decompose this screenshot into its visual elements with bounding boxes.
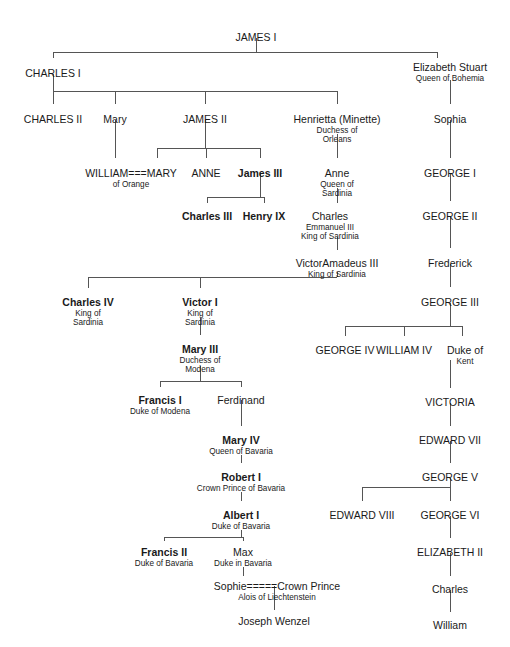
person-title: King of [62, 309, 113, 319]
person-name: Albert I [212, 510, 270, 522]
person-node-ferdinand: Ferdinand [217, 395, 264, 407]
person-title: Queen of Bohemia [413, 74, 487, 84]
person-title: Modena [180, 365, 221, 375]
person-name: Mary [103, 114, 126, 126]
person-node-max: MaxDuke in Bavaria [214, 547, 272, 568]
person-title: Duke in Bavaria [214, 559, 272, 569]
person-name: VICTORIA [425, 397, 474, 409]
person-node-francis1: Francis IDuke of Modena [130, 395, 190, 416]
person-name: Sophia [434, 114, 467, 126]
person-node-william4: WILLIAM IV [376, 345, 432, 357]
person-node-mary3: Mary IIIDuchess ofModena [180, 344, 221, 375]
person-name: ELIZABETH II [417, 547, 483, 559]
person-node-charlespw: Charles [432, 584, 468, 596]
person-name: Francis I [130, 395, 190, 407]
person-title: Crown Prince of Bavaria [197, 484, 285, 494]
person-name: Mary IV [209, 435, 273, 447]
person-title: Duke of Modena [130, 407, 190, 417]
person-name: EDWARD VIII [330, 510, 395, 522]
person-node-james2: JAMES II [183, 114, 227, 126]
person-name: Max [214, 547, 272, 559]
person-name: GEORGE I [424, 168, 476, 180]
person-name: GEORGE III [421, 297, 479, 309]
person-node-albert1: Albert IDuke of Bavaria [212, 510, 270, 531]
person-title: Orleans [294, 135, 381, 145]
person-node-charles4: Charles IVKing ofSardinia [62, 297, 113, 328]
person-name: Anne [320, 168, 354, 180]
person-node-victoram: VictorAmadeus IIIKing of Sardinia [296, 258, 379, 279]
person-node-george1: GEORGE I [424, 168, 476, 180]
person-node-edward8: EDWARD VIII [330, 510, 395, 522]
person-node-dukekent: Duke ofKent [447, 345, 483, 366]
person-node-charlesem: CharlesEmmanuel IIIKing of Sardinia [301, 211, 359, 242]
person-name: Joseph Wenzel [238, 616, 310, 628]
person-title: Emmanuel III [301, 223, 359, 233]
person-node-victoria: VICTORIA [425, 397, 474, 409]
person-name: EDWARD VII [419, 435, 481, 447]
person-node-george4: GEORGE IV [316, 345, 375, 357]
person-name: Robert I [197, 472, 285, 484]
person-title: Duke of Bavaria [135, 559, 193, 569]
person-title: King of Sardinia [301, 232, 359, 242]
person-node-elizstu: Elizabeth StuartQueen of Bohemia [413, 62, 487, 83]
person-node-sophiecp: Sophie=====Crown PrinceAlois of Liechten… [214, 581, 340, 602]
person-name: ANNE [191, 168, 220, 180]
person-title: of Orange [85, 180, 177, 190]
person-name: GEORGE V [422, 472, 478, 484]
person-node-charles3: Charles III [182, 211, 232, 223]
person-name: Charles IV [62, 297, 113, 309]
person-name: Henrietta (Minette) [294, 114, 381, 126]
person-name: WILLIAM===MARY [85, 168, 177, 180]
person-name: CHARLES I [25, 68, 80, 80]
person-name: GEORGE II [423, 211, 478, 223]
person-title: Sardinia [320, 189, 354, 199]
person-name: Duke of [447, 345, 483, 357]
person-name: Charles [301, 211, 359, 223]
person-node-sophia: Sophia [434, 114, 467, 126]
person-name: VictorAmadeus III [296, 258, 379, 270]
person-name: James III [238, 168, 282, 180]
person-node-josephw: Joseph Wenzel [238, 616, 310, 628]
person-node-mary4: Mary IVQueen of Bavaria [209, 435, 273, 456]
person-node-george2: GEORGE II [423, 211, 478, 223]
person-title: King of Sardinia [296, 270, 379, 280]
person-name: Mary III [180, 344, 221, 356]
person-name: JAMES I [236, 32, 277, 44]
person-node-james3: James III [238, 168, 282, 180]
person-title: Kent [447, 357, 483, 367]
person-name: JAMES II [183, 114, 227, 126]
person-title: Queen of [320, 180, 354, 190]
person-node-charles1: CHARLES I [25, 68, 80, 80]
person-name: Charles [432, 584, 468, 596]
person-node-annesard: AnneQueen ofSardinia [320, 168, 354, 199]
person-node-william: William [433, 620, 467, 632]
person-node-james1: JAMES I [236, 32, 277, 44]
person-node-george6: GEORGE VI [421, 510, 480, 522]
person-title: Alois of Liechtenstein [214, 593, 340, 603]
person-name: WILLIAM IV [376, 345, 432, 357]
family-tree-diagram: JAMES ICHARLES IElizabeth StuartQueen of… [0, 0, 510, 647]
person-node-frederick: Frederick [428, 258, 472, 270]
person-node-edward7: EDWARD VII [419, 435, 481, 447]
person-node-george3: GEORGE III [421, 297, 479, 309]
person-node-george5: GEORGE V [422, 472, 478, 484]
person-title: Duchess of [180, 356, 221, 366]
person-name: William [433, 620, 467, 632]
person-node-robert1: Robert ICrown Prince of Bavaria [197, 472, 285, 493]
person-name: Francis II [135, 547, 193, 559]
person-title: Queen of Bavaria [209, 447, 273, 457]
person-node-francis2: Francis IIDuke of Bavaria [135, 547, 193, 568]
person-node-elizabeth2: ELIZABETH II [417, 547, 483, 559]
person-title: King of [182, 309, 217, 319]
person-name: Sophie=====Crown Prince [214, 581, 340, 593]
person-node-mary: Mary [103, 114, 126, 126]
person-name: Ferdinand [217, 395, 264, 407]
person-title: Sardinia [182, 318, 217, 328]
person-name: Charles III [182, 211, 232, 223]
person-title: Duchess of [294, 126, 381, 136]
person-node-anne: ANNE [191, 168, 220, 180]
person-name: GEORGE VI [421, 510, 480, 522]
person-node-henrietta: Henrietta (Minette)Duchess ofOrleans [294, 114, 381, 145]
person-name: Elizabeth Stuart [413, 62, 487, 74]
person-title: Sardinia [62, 318, 113, 328]
